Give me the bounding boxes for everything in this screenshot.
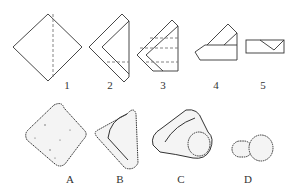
result-label-a: A bbox=[66, 174, 74, 185]
result-a-shape bbox=[26, 104, 86, 166]
diagram-canvas: 1 2 3 4 5 A B C D bbox=[0, 0, 297, 194]
fold-step-4-shape bbox=[195, 24, 237, 60]
result-label-c: C bbox=[177, 174, 184, 185]
step-label-3: 3 bbox=[160, 80, 166, 91]
result-label-d: D bbox=[244, 174, 252, 185]
result-d-shape bbox=[232, 135, 273, 161]
fold-step-1-shape bbox=[13, 14, 82, 81]
fold-step-3-shape bbox=[137, 20, 178, 71]
fold-step-2-shape bbox=[89, 14, 129, 82]
step-label-4: 4 bbox=[213, 80, 219, 91]
result-c-shape bbox=[152, 110, 212, 159]
result-b-shape bbox=[95, 110, 138, 169]
step-label-2: 2 bbox=[107, 80, 113, 91]
step-label-5: 5 bbox=[260, 80, 266, 91]
diagram-drawing bbox=[0, 0, 297, 194]
fold-step-5-shape bbox=[246, 40, 284, 53]
step-label-1: 1 bbox=[64, 80, 70, 91]
result-label-b: B bbox=[116, 174, 123, 185]
